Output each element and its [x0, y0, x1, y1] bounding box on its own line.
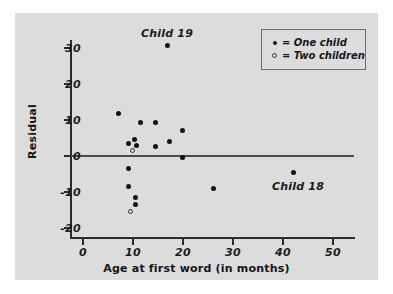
filled-circle-icon — [269, 41, 280, 45]
x-tick-label: 10 — [113, 246, 153, 259]
data-point — [138, 120, 143, 125]
x-tick — [132, 239, 134, 245]
x-tick-label: 50 — [313, 246, 353, 259]
x-tick — [232, 239, 234, 245]
legend-item-one-child: = One child — [269, 36, 358, 49]
x-axis-line — [70, 237, 355, 239]
data-point — [167, 139, 172, 144]
x-tick-label: 40 — [263, 246, 303, 259]
data-point — [211, 186, 216, 191]
data-point — [165, 43, 170, 48]
figure-panel: -20-100102030 01020304050 Residual Age a… — [15, 13, 378, 280]
data-point — [130, 148, 135, 153]
data-point — [180, 155, 185, 160]
open-circle-icon — [269, 53, 280, 58]
data-point — [126, 184, 131, 189]
y-tick-label: -20 — [41, 222, 81, 235]
legend-box: = One child = Two children — [261, 29, 366, 70]
x-axis-title: Age at first word (in months) — [15, 262, 378, 275]
data-point — [180, 128, 185, 133]
data-point — [128, 209, 133, 214]
data-point — [134, 143, 139, 148]
y-axis-title: Residual — [26, 87, 39, 177]
legend-label-two-children: = Two children — [282, 50, 365, 61]
x-tick-label: 0 — [63, 246, 103, 259]
y-tick-label: -10 — [41, 186, 81, 199]
data-point — [153, 120, 158, 125]
y-tick-label: 10 — [41, 114, 81, 127]
data-point — [133, 195, 138, 200]
legend-label-one-child: = One child — [282, 37, 347, 48]
point-annotation: Child 18 — [272, 179, 324, 192]
y-axis-line — [70, 40, 72, 238]
data-point — [116, 111, 121, 116]
x-tick — [332, 239, 334, 245]
data-point — [132, 137, 137, 142]
legend-item-two-children: = Two children — [269, 49, 358, 62]
data-point — [153, 144, 158, 149]
y-tick-label: 30 — [41, 42, 81, 55]
data-point — [126, 141, 131, 146]
y-tick-label: 0 — [41, 150, 81, 163]
point-annotation: Child 19 — [141, 26, 193, 39]
data-point — [291, 170, 296, 175]
x-tick-label: 20 — [163, 246, 203, 259]
zero-reference-line — [71, 155, 354, 157]
scatter-plot: -20-100102030 01020304050 Residual Age a… — [15, 13, 378, 280]
data-point — [133, 202, 138, 207]
x-tick — [82, 239, 84, 245]
y-tick-label: 20 — [41, 78, 81, 91]
x-tick — [282, 239, 284, 245]
x-tick-label: 30 — [213, 246, 253, 259]
x-tick — [182, 239, 184, 245]
data-point — [126, 166, 131, 171]
